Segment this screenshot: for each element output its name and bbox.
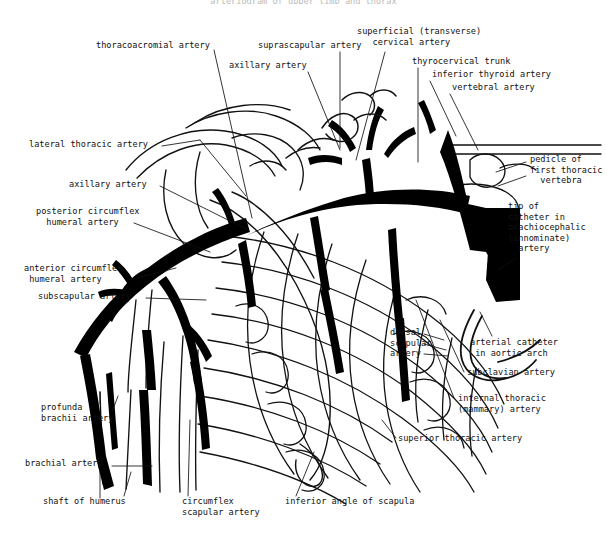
label-tip-of-catheter: tip of catheter in brachiocephalic (inno…	[508, 201, 586, 254]
label-superior-thoracic-artery: superior thoracic artery	[398, 433, 522, 444]
label-inferior-thyroid-artery: inferior thyroid artery	[432, 69, 551, 80]
label-posterior-circumflex-humeral: posterior circumflex humeral artery	[36, 206, 139, 227]
label-anterior-circumflex-humeral: anterior circumflex humeral artery	[24, 263, 122, 284]
upper-vessel-outlines	[286, 90, 396, 158]
label-arterial-catheter-aortic-arch: arterial catheter in aortic arch	[470, 337, 558, 358]
label-vertebral-artery: vertebral artery	[452, 82, 535, 93]
label-axillary-artery-top: axillary artery	[229, 60, 307, 71]
label-superficial-cervical-artery: superficial (transverse) cervical artery	[357, 26, 481, 47]
label-thoracoacromial-artery: thoracoacromial artery	[96, 40, 210, 51]
label-dorsal-scapular-artery: dorsal scapular artery	[390, 327, 431, 359]
label-internal-thoracic-artery: internal thoracic (mammary) artery	[458, 393, 546, 414]
label-subclavian-artery: subclavian artery	[467, 367, 555, 378]
label-brachial-artery: brachial artery	[25, 458, 103, 469]
label-pedicle-first-thoracic-vertebra: pedicle of first thoracic vertebra	[530, 154, 602, 186]
leader-lines	[100, 50, 526, 498]
label-suprascapular-artery: suprascapular artery	[258, 40, 361, 51]
label-lateral-thoracic-artery: lateral thoracic artery	[29, 139, 148, 150]
label-axillary-artery-left: axillary artery	[69, 179, 147, 190]
label-subscapular-artery: subscapular artery	[38, 291, 131, 302]
label-profunda-brachii-artery: profunda brachii artery	[41, 402, 113, 423]
label-shaft-of-humerus: shaft of humerus	[43, 496, 126, 507]
label-inferior-angle-of-scapula: inferior angle of scapula	[285, 496, 414, 507]
label-circumflex-scapular-artery: circumflex scapular artery	[182, 496, 260, 517]
label-thyrocervical-trunk: thyrocervical trunk	[412, 56, 510, 67]
